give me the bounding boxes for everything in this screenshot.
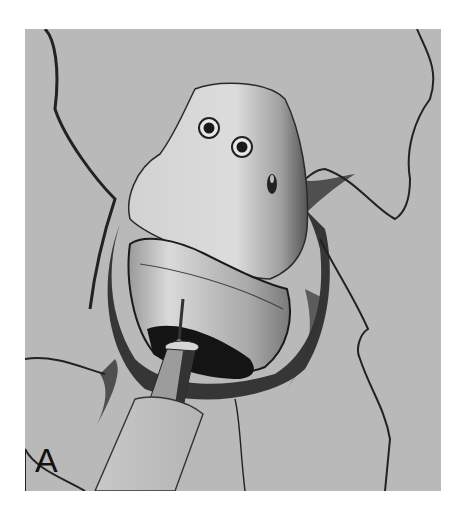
figure-panel: A bbox=[25, 29, 441, 491]
screw-hole-icon-2 bbox=[232, 137, 252, 157]
panel-label: A bbox=[35, 443, 58, 477]
illustration-hip-implant bbox=[25, 29, 441, 491]
impactor-handle bbox=[95, 397, 203, 491]
slot-hole-icon bbox=[267, 174, 277, 194]
screw-hole-icon-1 bbox=[199, 118, 219, 138]
